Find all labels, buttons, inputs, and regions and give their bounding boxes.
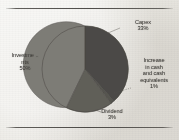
chart-page: Capex 33% Increase in cash and cash equi… bbox=[0, 0, 179, 140]
pie-label-dividend: Dividend 3% bbox=[88, 108, 136, 121]
leader-line-capex bbox=[108, 28, 120, 33]
pie-label-capex: Capex 33% bbox=[121, 19, 165, 32]
pie-label-investments: Investme .. nts 50% bbox=[3, 52, 47, 72]
pie-chart: Capex 33% Increase in cash and cash equi… bbox=[0, 0, 179, 140]
pie-label-increase-in-cash: Increase in cash and cash equivalents 1% bbox=[131, 57, 177, 90]
